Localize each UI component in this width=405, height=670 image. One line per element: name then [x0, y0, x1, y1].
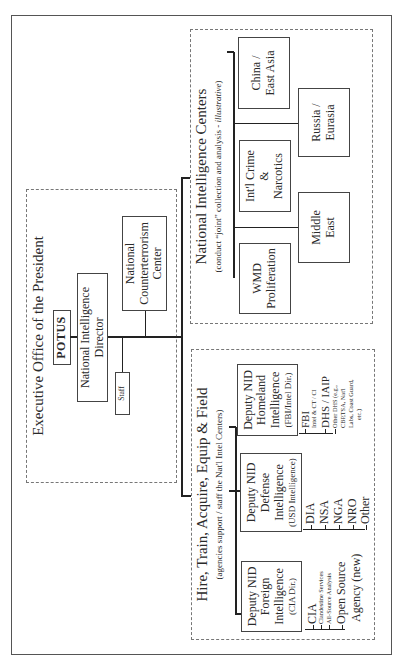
center-wmd[interactable]: WMD Proliferation	[239, 243, 291, 314]
agency-all-source-item: All-Source Analysis	[326, 573, 333, 630]
agency-fbi-intel: Intel & CT / CI	[311, 389, 318, 428]
main-spine	[181, 177, 183, 497]
nic-connector	[181, 177, 190, 179]
defense-connector	[229, 490, 240, 492]
hire-subtitle: (agencies support / staff the Nat'l Inte…	[214, 349, 224, 640]
nid-label-2: Director	[93, 318, 107, 358]
staff-connector	[122, 337, 123, 372]
agency-clandestine-item: Clandestine Services	[318, 571, 325, 630]
nid-label-1: National Intelligence	[79, 287, 93, 388]
deputy-spine-top	[229, 426, 236, 428]
agency-open-source-item-2: Agency (new)	[349, 554, 364, 622]
middle-east-connector	[234, 227, 298, 228]
potus-nid-connector	[70, 337, 77, 339]
defense-items: DIA NSA NGA NRO Other	[303, 460, 375, 530]
center-russia[interactable]: Russia / Eurasia	[298, 88, 350, 157]
deputy-spine	[235, 427, 237, 615]
eop-title: Executive Office of the President	[30, 189, 47, 483]
deputy-foreign-box[interactable]: Deputy NID Foreign Intelligence (CIA Dir…	[241, 561, 302, 632]
nctc-box[interactable]: National Counterterrorism Center	[122, 216, 167, 311]
deputy-defense-box[interactable]: Deputy NID Defense Intelligence (USD Int…	[240, 453, 302, 532]
nctc-label-2: Counterterrorism	[138, 222, 152, 305]
agency-other-dhs-4: etc.)	[356, 409, 363, 420]
nic-spine	[233, 52, 235, 278]
agency-open-source-item: Open Source	[334, 562, 349, 630]
org-chart: Executive Office of the President POTUS …	[0, 0, 405, 670]
agency-dia: DIA	[303, 503, 318, 530]
nctc-label-1: National	[124, 243, 138, 284]
agency-other-dhs-3: Labs, Coast Guard,	[348, 379, 355, 428]
agency-nga: NGA	[331, 498, 346, 530]
agency-dhs-iaip: DHS / IAIP	[319, 376, 331, 434]
deputy-homeland-box[interactable]: Deputy NID Homeland Intelligence (FBI/In…	[237, 364, 298, 436]
nctc-label-3: Center	[151, 248, 165, 280]
staff-box[interactable]: Staff	[115, 372, 130, 415]
potus-label: POTUS	[55, 316, 69, 359]
nic-spine-top	[227, 51, 234, 53]
staff-label: Staff	[118, 386, 127, 400]
nic-title: National Intelligence Centers	[193, 29, 210, 324]
agency-other: Other	[358, 497, 373, 530]
foreign-items: CIA Clandestine Services All-Source Anal…	[305, 552, 370, 630]
center-china[interactable]: China / East Asia	[238, 37, 290, 109]
center-middle-east[interactable]: Middle East	[298, 192, 350, 263]
agency-other-dhs-2: CBP,TSA, Nat'l	[340, 388, 347, 428]
hire-title: Hire, Train, Acquire, Equip & Field	[194, 349, 211, 640]
nic-subtitle: (conduct “joint” collection and analysis…	[213, 29, 223, 324]
nctc-connector	[145, 311, 146, 337]
nid-box[interactable]: National Intelligence Director	[77, 273, 108, 402]
agency-other-dhs: Other DHS (e.g.,	[332, 385, 339, 434]
potus-box[interactable]: POTUS	[53, 310, 71, 365]
agency-nsa: NSA	[317, 500, 332, 530]
center-intl-crime[interactable]: Int'l Crime & Narcotics	[239, 140, 291, 212]
homeland-items: FBI Intel & CT / CI DHS / IAIP Other DHS…	[299, 354, 374, 434]
russia-connector	[234, 123, 298, 124]
hire-connector	[181, 495, 191, 497]
